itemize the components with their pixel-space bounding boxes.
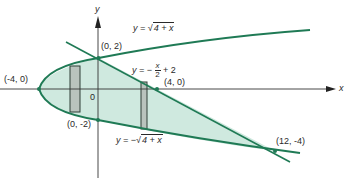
equation-upper-curve: y = √4 + x (133, 24, 174, 33)
sqrt-icon: √ (148, 23, 153, 33)
point-label-0-2: (0, 2) (101, 42, 122, 51)
y-axis-arrow-icon (95, 16, 101, 28)
point-0-2 (97, 56, 101, 60)
origin-label: 0 (90, 93, 95, 102)
point-4-0 (155, 87, 159, 91)
point-label-4-0: (4, 0) (164, 78, 185, 87)
y-axis-label: y (95, 5, 100, 14)
equation-line-prefix: y = − (132, 65, 152, 75)
equation-line: y = − x2 + 2 (132, 62, 176, 79)
point-0-neg2 (96, 118, 100, 122)
x-axis-label: x (339, 84, 344, 93)
point-12-neg4 (273, 149, 277, 153)
point-neg4-0 (37, 87, 41, 91)
equation-lower-radicand: 4 + x (141, 134, 163, 145)
equation-lower-prefix: y = − (116, 135, 136, 145)
equation-lower-curve: y = −√4 + x (116, 136, 163, 145)
equation-upper-prefix: y = (133, 23, 148, 33)
equation-line-suffix: + 2 (161, 65, 176, 75)
x-axis-arrow-icon (326, 86, 336, 92)
equation-upper-radicand: 4 + x (153, 22, 175, 33)
point-label-neg4-0: (-4, 0) (4, 75, 28, 84)
point-label-0-neg2: (0, -2) (67, 120, 91, 129)
point-label-12-neg4: (12, -4) (276, 137, 305, 146)
